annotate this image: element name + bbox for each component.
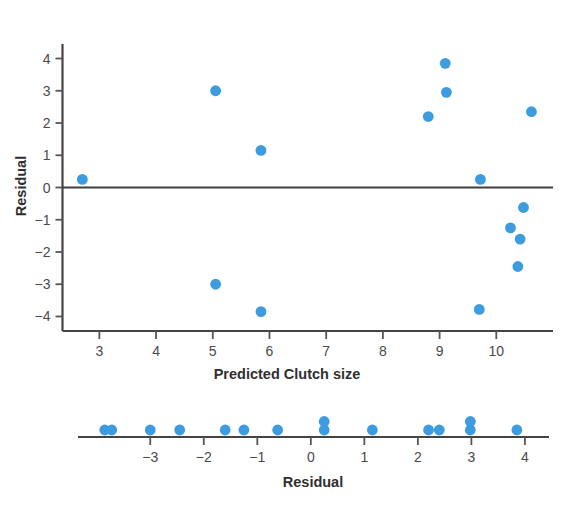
dotplot-tick-label: −2 — [196, 449, 212, 465]
y-tick-label: 4 — [43, 51, 51, 67]
x-tick-label: 9 — [436, 343, 444, 359]
y-tick-label: 0 — [43, 180, 51, 196]
scatter-data-point — [512, 261, 523, 272]
residual-dot-plot: −3−2−101234 — [78, 416, 549, 465]
x-tick-label: 4 — [152, 343, 160, 359]
dotplot-data-point — [106, 425, 117, 436]
residual-plot-figure: 43210−1−2−3−4345678910 −3−2−101234 Predi… — [0, 0, 576, 507]
dotplot-x-axis-title-residual: Residual — [283, 474, 343, 490]
dotplot-tick-label: −1 — [249, 449, 265, 465]
scatter-data-point — [518, 202, 529, 213]
dotplot-tick-label: 1 — [360, 449, 368, 465]
scatter-data-point — [526, 106, 537, 117]
dotplot-tick-label: 4 — [521, 449, 529, 465]
dotplot-data-point — [423, 425, 434, 436]
x-tick-label: 6 — [266, 343, 274, 359]
scatter-data-point — [423, 111, 434, 122]
scatter-data-point — [256, 306, 267, 317]
y-axis-title-residual: Residual — [13, 156, 29, 216]
y-tick-label: 2 — [43, 115, 51, 131]
dotplot-data-point — [434, 425, 445, 436]
scatter-data-point — [475, 174, 486, 185]
scatter-data-point — [515, 234, 526, 245]
dotplot-data-point — [174, 425, 185, 436]
dotplot-data-point — [511, 425, 522, 436]
x-axis-title-predicted-clutch-size: Predicted Clutch size — [214, 366, 361, 382]
scatter-data-point — [210, 85, 221, 96]
chart-canvas: 43210−1−2−3−4345678910 −3−2−101234 Predi… — [0, 0, 576, 507]
x-tick-label: 8 — [379, 343, 387, 359]
dotplot-data-point — [220, 425, 231, 436]
dotplot-data-point — [145, 425, 156, 436]
scatter-data-point — [440, 58, 451, 69]
dotplot-tick-label: 2 — [414, 449, 422, 465]
scatter-data-point — [474, 304, 485, 315]
dotplot-data-point — [272, 425, 283, 436]
x-tick-label: 5 — [209, 343, 217, 359]
x-tick-label: 7 — [322, 343, 330, 359]
dotplot-tick-label: 3 — [467, 449, 475, 465]
dotplot-data-point — [239, 425, 250, 436]
dotplot-tick-label: 0 — [307, 449, 315, 465]
dotplot-data-point — [367, 425, 378, 436]
y-tick-label: −3 — [35, 276, 51, 292]
scatter-data-point — [77, 174, 88, 185]
y-tick-label: 1 — [43, 147, 51, 163]
dotplot-data-point — [319, 416, 330, 427]
scatter-data-point — [256, 145, 267, 156]
y-tick-label: −4 — [35, 308, 51, 324]
scatter-data-point — [210, 279, 221, 290]
y-tick-label: −1 — [35, 212, 51, 228]
x-tick-label: 10 — [489, 343, 505, 359]
scatter-data-point — [441, 87, 452, 98]
x-tick-label: 3 — [95, 343, 103, 359]
scatter-data-point — [505, 222, 516, 233]
dotplot-data-point — [465, 416, 476, 427]
scatter-plot: 43210−1−2−3−4345678910 — [35, 44, 553, 359]
y-tick-label: −2 — [35, 244, 51, 260]
dotplot-tick-label: −3 — [142, 449, 158, 465]
y-tick-label: 3 — [43, 83, 51, 99]
